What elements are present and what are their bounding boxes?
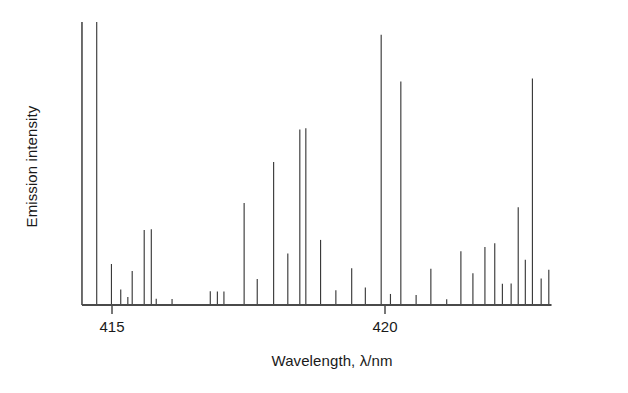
axes-group [82,22,552,305]
emission-spectrum-figure: Emission intensity 415 420 Wavelength, λ… [0,0,628,393]
x-tick-label-420: 420 [355,318,415,335]
spectrum-line-group [97,22,549,305]
x-axis-ticks [112,305,385,314]
x-tick-label-415: 415 [82,318,142,335]
x-axis-label: Wavelength, λ/nm [57,352,607,369]
